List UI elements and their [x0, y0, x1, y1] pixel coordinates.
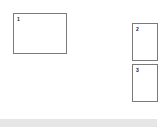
region-label-3: 3 [136, 67, 139, 73]
region-box-2[interactable]: 2 [132, 23, 158, 61]
region-label-2: 2 [136, 26, 139, 32]
bottom-bar [0, 119, 157, 127]
diagram-canvas: 1 2 3 [0, 0, 160, 127]
region-box-1[interactable]: 1 [13, 13, 67, 54]
region-box-3[interactable]: 3 [132, 64, 158, 102]
region-label-1: 1 [17, 16, 20, 22]
